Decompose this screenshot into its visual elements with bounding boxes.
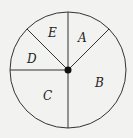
sector-label-b: B [94, 76, 104, 90]
sector-label-c: C [43, 89, 52, 103]
sector-boundaries [10, 12, 109, 128]
sector-boundary-line [68, 29, 109, 70]
spinner-pivot [65, 67, 72, 74]
sector-label-d: D [26, 52, 37, 66]
spinner-diagram: A B C D E [0, 0, 133, 138]
sector-labels: A B C D E [26, 26, 104, 103]
sector-label-a: A [77, 31, 87, 45]
sector-label-e: E [47, 26, 57, 40]
